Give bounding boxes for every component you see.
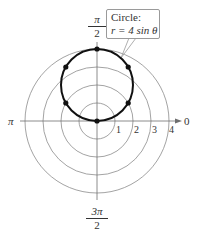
point-theta-0 bbox=[94, 118, 99, 123]
tick-label-4: 4 bbox=[169, 124, 174, 135]
point-theta-pi-3 bbox=[126, 64, 131, 69]
tick-label-3: 3 bbox=[152, 124, 157, 135]
point-theta-pi-2 bbox=[94, 46, 99, 51]
fraction-denominator: 2 bbox=[86, 220, 108, 231]
point-theta-5pi-6 bbox=[63, 100, 68, 105]
angle-label-pi-over-2: π 2 bbox=[88, 14, 106, 39]
point-theta-2pi-3 bbox=[63, 64, 68, 69]
angle-label-pi: π bbox=[8, 115, 14, 127]
tick-label-1: 1 bbox=[116, 124, 121, 135]
axis-arrow-icon bbox=[175, 119, 182, 124]
tick-label-2: 2 bbox=[134, 124, 139, 135]
fraction-denominator: 2 bbox=[88, 28, 106, 39]
angle-label-0: 0 bbox=[184, 115, 190, 127]
equation-callout: Circle: r = 4 sin θ bbox=[106, 9, 160, 39]
callout-pointer bbox=[121, 38, 136, 58]
fraction-numerator: 3π bbox=[86, 206, 108, 217]
angle-label-3pi-over-2: 3π 2 bbox=[86, 206, 108, 231]
fraction-numerator: π bbox=[88, 14, 106, 25]
callout-equation: r = 4 sin θ bbox=[111, 24, 159, 37]
callout-title: Circle: bbox=[111, 11, 159, 24]
point-theta-pi-6 bbox=[126, 100, 131, 105]
